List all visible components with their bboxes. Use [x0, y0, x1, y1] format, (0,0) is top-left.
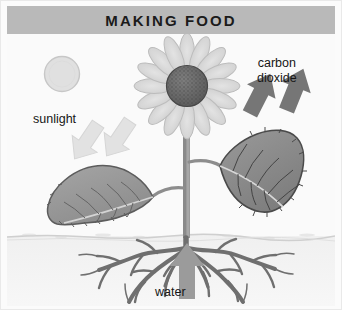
label-carbon-dioxide-line2: dioxide: [257, 71, 297, 86]
label-sunlight: sunlight: [33, 113, 76, 127]
label-carbon-dioxide-line1: carbon: [257, 56, 297, 71]
label-carbon-dioxide: carbon dioxide: [257, 56, 297, 85]
label-water: water: [155, 286, 186, 300]
sun-icon: [45, 57, 80, 92]
sunflower: [134, 34, 240, 139]
title-bar: MAKING FOOD: [7, 6, 335, 34]
making-food-diagram: MAKING FOOD: [0, 0, 342, 310]
page-title: MAKING FOOD: [105, 12, 236, 29]
